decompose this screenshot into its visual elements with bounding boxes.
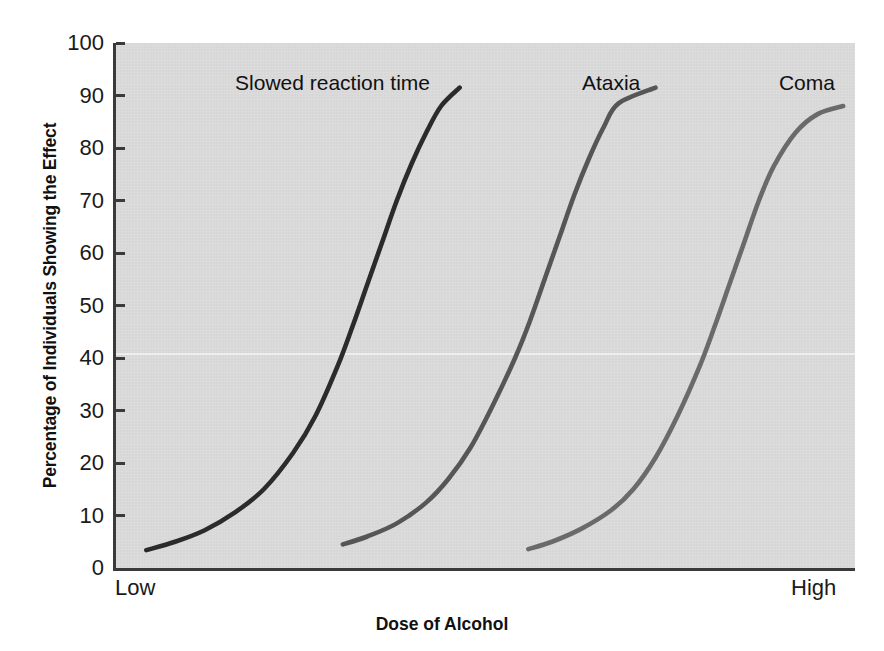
plot-area: Slowed reaction timeAtaxiaComa <box>113 43 855 571</box>
y-axis-tick-label: 70 <box>52 190 104 212</box>
chart-figure: Percentage of Individuals Showing the Ef… <box>0 0 884 651</box>
x-axis-label-high: High <box>791 575 836 601</box>
y-axis-tick-label: 80 <box>52 137 104 159</box>
curve-annotation-labels: Slowed reaction timeAtaxiaComa <box>116 43 855 568</box>
y-axis-tick-label: 50 <box>52 295 104 317</box>
y-axis-tick-label: 60 <box>52 242 104 264</box>
x-axis-title: Dose of Alcohol <box>0 614 884 635</box>
y-axis-tick-label: 90 <box>52 85 104 107</box>
curve-label-ataxia: Ataxia <box>582 72 640 93</box>
x-axis-label-low: Low <box>115 575 155 601</box>
y-axis-tick-label: 100 <box>52 32 104 54</box>
y-axis-tick-label: 0 <box>52 557 104 579</box>
curve-label-coma: Coma <box>779 72 835 93</box>
y-axis-tick-label: 20 <box>52 452 104 474</box>
y-axis-tick-label: 10 <box>52 505 104 527</box>
curve-label-slowed-reaction-time: Slowed reaction time <box>235 72 430 93</box>
y-axis-tick-label: 30 <box>52 400 104 422</box>
y-axis-tick-label: 40 <box>52 347 104 369</box>
